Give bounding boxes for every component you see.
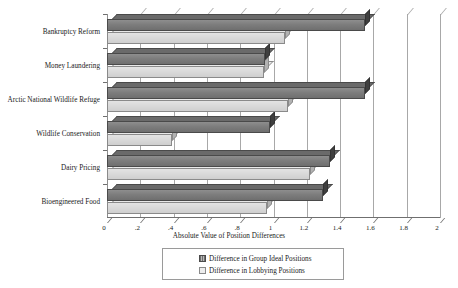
bar-face	[107, 87, 365, 99]
legend-label-group-ideal: Difference in Group Ideal Positions	[209, 255, 311, 263]
bar-group-ideal	[107, 19, 365, 31]
gridline	[440, 14, 441, 218]
bar-lobbying	[107, 32, 285, 44]
gridline	[340, 14, 341, 218]
y-axis-label-0: Bankruptcy Reform	[43, 28, 100, 36]
legend-item-lobbying: Difference in Lobbying Positions	[199, 265, 343, 276]
plot-area	[107, 14, 440, 218]
x-axis-tick-label: .8	[235, 224, 240, 232]
bar-face	[107, 134, 172, 146]
y-axis-label-5: Bioengineered Food	[42, 198, 101, 206]
y-axis-tick	[103, 82, 107, 83]
bar-face	[107, 189, 323, 201]
x-axis-tick-label: .4	[168, 224, 173, 232]
gridline	[373, 14, 374, 218]
x-axis-tick	[140, 218, 145, 223]
y-axis-tick	[103, 14, 107, 15]
x-axis-tick-label: 1.6	[366, 224, 375, 232]
y-axis-label-3: Wildlife Conservation	[36, 130, 100, 138]
x-axis-tick-label: .6	[201, 224, 206, 232]
bar-lobbying	[107, 100, 288, 112]
dark-swatch-icon	[199, 255, 206, 262]
x-axis-tick	[340, 218, 345, 223]
bar-face	[107, 53, 265, 65]
bar-group-ideal	[107, 121, 270, 133]
bar-group-ideal	[107, 87, 365, 99]
x-axis-tick-label: 1.2	[299, 224, 308, 232]
x-axis-tick	[174, 218, 179, 223]
y-axis-tick	[103, 116, 107, 117]
bar-face	[107, 32, 285, 44]
x-axis-tick-label: 1.8	[399, 224, 408, 232]
x-axis-tick-label: 2	[435, 224, 439, 232]
x-axis-tick-label: 1	[269, 224, 273, 232]
y-axis-tick	[103, 150, 107, 151]
chart-legend: Difference in Group Ideal Positions Diff…	[162, 248, 344, 280]
bar-lobbying	[107, 202, 267, 214]
bar-face	[107, 121, 270, 133]
bar-face	[107, 66, 264, 78]
bar-lobbying	[107, 66, 264, 78]
bar-face	[107, 155, 330, 167]
y-axis-label-4: Dairy Pricing	[61, 164, 100, 172]
y-axis-tick	[103, 184, 107, 185]
x-axis-tick	[440, 218, 445, 223]
x-axis-tick	[240, 218, 245, 223]
legend-label-lobbying: Difference in Lobbying Positions	[209, 267, 305, 275]
bar-face	[107, 100, 288, 112]
bar-face	[107, 168, 310, 180]
bar-face	[107, 19, 365, 31]
x-axis-tick	[407, 218, 412, 223]
x-axis-tick-label: 0	[102, 224, 106, 232]
x-axis-line	[107, 217, 440, 218]
bar-face	[107, 202, 267, 214]
x-axis-tick	[307, 218, 312, 223]
bar-lobbying	[107, 168, 310, 180]
light-swatch-icon	[199, 267, 206, 274]
x-axis-tick-label: .2	[135, 224, 140, 232]
x-axis-tick	[274, 218, 279, 223]
legend-item-group-ideal: Difference in Group Ideal Positions	[199, 253, 343, 264]
bar-group-ideal	[107, 155, 330, 167]
y-axis-label-2: Arctic National Wildlife Refuge	[8, 96, 100, 104]
x-axis-tick	[107, 218, 112, 223]
bar-lobbying	[107, 134, 172, 146]
bar-group-ideal	[107, 189, 323, 201]
bar-chart: Bankruptcy Reform Money Laundering Arcti…	[0, 0, 458, 288]
gridline	[407, 14, 408, 218]
x-axis-tick	[207, 218, 212, 223]
bar-group-ideal	[107, 53, 265, 65]
gridline-depth	[440, 8, 447, 15]
x-axis-tick	[373, 218, 378, 223]
y-axis-tick	[103, 48, 107, 49]
y-axis-category-labels: Bankruptcy Reform Money Laundering Arcti…	[0, 10, 104, 218]
x-axis-tick-label: 1.4	[333, 224, 342, 232]
y-axis-label-1: Money Laundering	[45, 62, 100, 70]
x-axis-title: Absolute Value of Position Differences	[0, 232, 458, 241]
